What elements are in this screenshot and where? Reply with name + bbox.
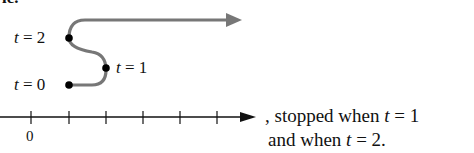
point-t2 bbox=[65, 34, 73, 42]
label-t0: t = 0 bbox=[14, 75, 45, 95]
number-line-arrow-icon bbox=[240, 112, 256, 122]
point-t0 bbox=[65, 81, 73, 89]
label-t2: t = 2 bbox=[14, 28, 45, 48]
motion-path bbox=[69, 20, 228, 85]
motion-diagram bbox=[0, 0, 474, 153]
caption-line-2: and when t = 2. bbox=[268, 129, 386, 151]
path-arrow-head-icon bbox=[226, 13, 242, 27]
caption-line-1: , stopped when t = 1 bbox=[265, 105, 419, 127]
tick-label-zero: 0 bbox=[26, 128, 34, 145]
label-t1: t = 1 bbox=[116, 58, 147, 78]
point-t1 bbox=[102, 64, 110, 72]
